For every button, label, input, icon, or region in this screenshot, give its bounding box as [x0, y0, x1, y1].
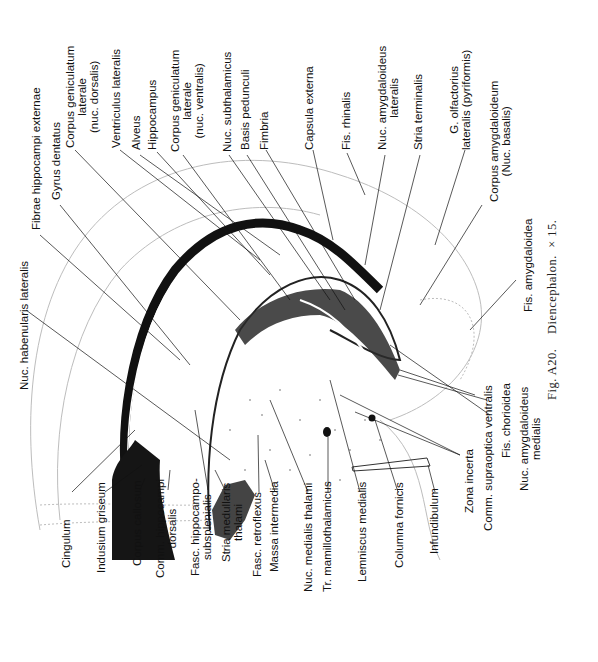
label-nuc-habenularis-lateralis: Nuc. habenularis lateralis	[18, 261, 30, 390]
label-capsula-externa: Capsula externa	[303, 66, 315, 150]
label-hippocampus: Hippocampus	[146, 80, 158, 150]
label-corpus-geniculatum-laterale-dorsalis: Corpus geniculatum laterale (nuc. dorsal…	[64, 46, 100, 148]
caption-magnification: × 15.	[545, 220, 559, 248]
label-line: medialis	[530, 387, 542, 491]
label-corpus-geniculatum-laterale-ventralis: Corpus geniculatum laterale (nuc. ventra…	[169, 50, 205, 152]
diencephalon-figure: Nuc. habenularis lateralis Fibrae hippoc…	[0, 0, 598, 662]
label-infundibulum: Infundibulum	[428, 488, 440, 554]
label-massa-intermedia: Massa intermedia	[268, 481, 280, 572]
label-fibrae-hippocampi-externae: Fibrae hippocampi externae	[30, 87, 42, 230]
figure-caption: Fig. A20. Diencephalon. × 15.	[545, 220, 560, 401]
label-corpus-amygdaloideum: Corpus amygdaloideum (Nuc. basalis)	[488, 81, 512, 202]
label-columna-fornicis: Columna fornicis	[393, 482, 405, 568]
label-line: Nuc. amygdaloideus	[376, 46, 388, 150]
label-line: subsplenialis	[201, 478, 213, 576]
label-comm-hippocampi-dorsalis: Comm. hippocampi dorsalis	[154, 479, 178, 578]
label-fasc-hippocampo-subsplenialis: Fasc. hippocampo- subsplenialis	[189, 478, 213, 576]
label-line: G. olfactorius	[448, 50, 460, 150]
label-line: Corpus geniculatum	[64, 46, 76, 148]
label-nuc-medialis-thalami: Nuc. medialis thalami	[302, 483, 314, 592]
label-fis-chorioidea: Fis. chorioidea	[500, 383, 512, 458]
label-corpus-callosum: Corpus callosum	[131, 480, 143, 566]
label-fimbria: Fimbria	[258, 112, 270, 150]
label-comm-supraoptica-ventralis: Comm. supraoptica ventralis	[482, 385, 494, 531]
label-cingulum: Cingulum	[60, 519, 72, 568]
label-nuc-subthalamicus: Nuc. subthalamicus	[221, 52, 233, 152]
label-gyrus-dentatus: Gyrus dentatus	[50, 122, 62, 200]
caption-fig-label: Fig. A20.	[545, 349, 559, 400]
label-fis-rhinalis: Fis. rhinalis	[340, 92, 352, 150]
label-stria-medullaris-thalami: Stria medullaris thalami	[220, 483, 244, 562]
label-zona-incerta: Zona incerta	[463, 449, 475, 513]
label-line: Corpus geniculatum	[169, 50, 181, 152]
label-stria-terminalis: Stria terminalis	[412, 74, 424, 150]
label-line: (nuc. dorsalis)	[88, 46, 100, 148]
label-line: Nuc. amygdaloideus	[518, 387, 530, 491]
label-fasc-retroflexus: Fasc. retroflexus	[251, 492, 263, 577]
label-line: Stria medullaris	[220, 483, 232, 562]
label-line: lateralis (pyriformis)	[460, 50, 472, 150]
label-nuc-amygdaloideus-lateralis: Nuc. amygdaloideus lateralis	[376, 46, 400, 150]
label-line: Corpus amygdaloideum	[488, 81, 500, 202]
label-line: lateralis	[388, 46, 400, 150]
label-line: laterale	[76, 46, 88, 148]
label-line: (Nuc. basalis)	[500, 81, 512, 202]
label-line: Comm. hippocampi	[154, 479, 166, 578]
label-line: dorsalis	[166, 479, 178, 578]
label-fis-amygdaloidea: Fis. amygdaloidea	[522, 219, 534, 312]
label-line: laterale	[181, 50, 193, 152]
caption-title: Diencephalon.	[545, 255, 559, 334]
label-line: (nuc. ventralis)	[193, 50, 205, 152]
label-line: Fasc. hippocampo-	[189, 478, 201, 576]
label-nuc-amygdaloideus-medialis: Nuc. amygdaloideus medialis	[518, 387, 542, 491]
label-g-olfactorius-lateralis: G. olfactorius lateralis (pyriformis)	[448, 50, 472, 150]
label-indusium-griseum: Indusium griseum	[95, 482, 107, 573]
label-lemniscus-medialis: Lemniscus medialis	[356, 482, 368, 582]
label-alveus: Alveus	[130, 115, 142, 150]
label-tr-mamillothalamicus: Tr. mamillothalamicus	[321, 481, 333, 592]
label-line: thalami	[232, 483, 244, 562]
label-basis-pedunculi: Basis pedunculi	[239, 69, 251, 150]
label-ventriculus-lateralis: Ventriculus lateralis	[110, 49, 122, 148]
